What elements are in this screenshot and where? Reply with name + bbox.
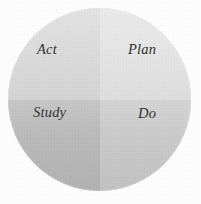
quadrant-label-do: Do (138, 105, 156, 122)
cycle-circle: Act Plan Study Do (8, 8, 191, 191)
quadrant-label-study: Study (33, 104, 66, 121)
quadrant-label-plan: Plan (128, 41, 156, 58)
pdsa-cycle-diagram: Act Plan Study Do (0, 0, 201, 204)
quadrant-grid (8, 8, 191, 191)
quadrant-label-act: Act (37, 41, 57, 58)
